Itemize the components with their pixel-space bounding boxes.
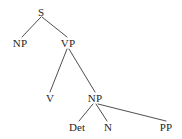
- syntax-tree-diagram: SNPVPVNPDetNPP: [0, 0, 182, 139]
- tree-edge-np2-to-pp: [98, 104, 166, 121]
- tree-edge-vp-to-np2: [69, 49, 95, 92]
- tree-edge-s-to-vp: [42, 17, 67, 37]
- tree-node-pp: PP: [160, 122, 172, 133]
- tree-node-n: N: [104, 122, 112, 133]
- tree-edge-np2-to-det: [79, 104, 93, 121]
- tree-edge-vp-to-v: [50, 49, 67, 92]
- tree-node-v: V: [46, 93, 54, 104]
- tree-node-vp: VP: [61, 38, 75, 49]
- tree-node-s: S: [38, 7, 44, 18]
- tree-node-np1: NP: [13, 38, 27, 49]
- edges-group: [22, 17, 166, 121]
- tree-node-det: Det: [69, 122, 85, 133]
- tree-edge-np2-to-n: [96, 104, 107, 121]
- tree-edge-s-to-np1: [22, 17, 41, 37]
- tree-edges-layer: [0, 0, 182, 139]
- tree-node-np2: NP: [88, 93, 102, 104]
